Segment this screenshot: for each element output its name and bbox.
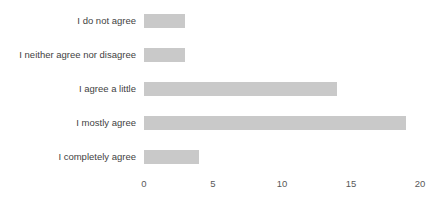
chart-row: I mostly agree <box>0 116 443 130</box>
x-tick-label: 15 <box>346 178 357 190</box>
category-label: I agree a little <box>0 82 136 96</box>
chart-row: I do not agree <box>0 14 443 28</box>
category-label: I neither agree nor disagree <box>0 48 136 62</box>
chart-row: I neither agree nor disagree <box>0 48 443 62</box>
bar <box>144 150 199 164</box>
bar <box>144 116 406 130</box>
x-tick-label: 10 <box>277 178 288 190</box>
x-tick-label: 20 <box>415 178 426 190</box>
x-axis: 0 5 10 15 20 <box>0 178 443 196</box>
bar <box>144 14 185 28</box>
x-tick-label: 5 <box>210 178 215 190</box>
category-label: I do not agree <box>0 14 136 28</box>
category-label: I completely agree <box>0 150 136 164</box>
bar <box>144 82 337 96</box>
chart-row: I completely agree <box>0 150 443 164</box>
bar-chart: I do not agree I neither agree nor disag… <box>0 0 443 207</box>
chart-row: I agree a little <box>0 82 443 96</box>
x-tick-label: 0 <box>141 178 146 190</box>
category-label: I mostly agree <box>0 116 136 130</box>
bar <box>144 48 185 62</box>
